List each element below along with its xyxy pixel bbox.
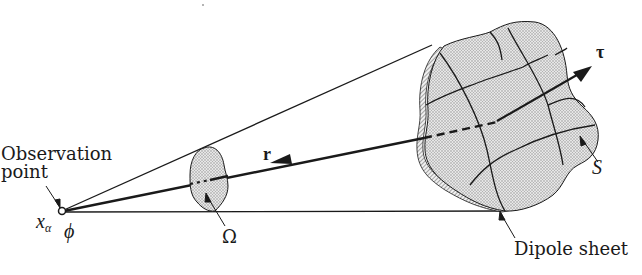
speck (202, 4, 204, 6)
tau-arrowhead-icon (573, 66, 592, 82)
omega-label: Ω (222, 228, 237, 246)
r-label: r (263, 145, 271, 163)
diagram-canvas: Observation point xα ϕ r Ω τ S Dipole sh… (0, 0, 642, 275)
diagram-svg (0, 0, 642, 275)
upper-tangent-line (64, 45, 432, 210)
phi-label: ϕ (64, 221, 74, 241)
dipole-sheet-label: Dipole sheet (514, 240, 628, 258)
observation-point-marker (59, 208, 66, 215)
surface-S (425, 21, 598, 211)
lower-tangent-line (64, 211, 502, 212)
S-label: S (592, 157, 602, 177)
r-vector (64, 138, 424, 211)
r-arrowhead-icon (270, 154, 292, 164)
x-alpha-label: xα (36, 211, 51, 231)
x-alpha-subscript: α (45, 221, 51, 235)
tau-label: τ (596, 43, 604, 61)
dipole-sheet-surface (417, 21, 598, 212)
x-alpha-base: x (36, 210, 45, 232)
observation-label-line2: point (1, 163, 48, 181)
